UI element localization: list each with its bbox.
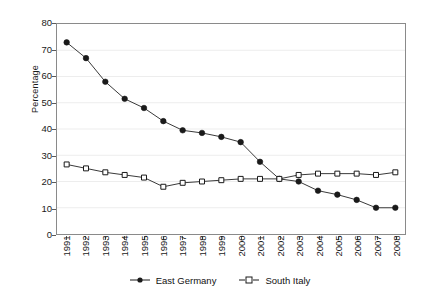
x-tick-label: 1991 bbox=[61, 230, 72, 262]
data-point bbox=[354, 171, 359, 176]
data-point bbox=[316, 171, 321, 176]
data-point bbox=[393, 205, 399, 211]
legend-item[interactable]: East Germany bbox=[129, 275, 217, 286]
x-tick-label: 1992 bbox=[80, 230, 91, 262]
y-tick-label: 20 bbox=[30, 176, 52, 187]
data-point bbox=[161, 184, 166, 189]
data-point bbox=[238, 139, 244, 145]
legend-item[interactable]: South Italy bbox=[238, 275, 310, 286]
line-chart: Percentage 01020304050607080 19911992199… bbox=[0, 0, 439, 293]
data-point bbox=[354, 197, 360, 203]
x-tick-label: 1998 bbox=[197, 230, 208, 262]
data-point bbox=[296, 172, 301, 177]
x-tick-label: 2000 bbox=[236, 230, 247, 262]
data-point bbox=[64, 162, 69, 167]
data-point bbox=[83, 55, 89, 61]
data-point bbox=[335, 192, 341, 198]
open-square-icon bbox=[238, 275, 260, 285]
x-tick-label: 2004 bbox=[314, 230, 325, 262]
data-point bbox=[277, 176, 282, 181]
x-tick-label: 2001 bbox=[255, 230, 266, 262]
y-tick-label: 70 bbox=[30, 44, 52, 55]
x-tick-label: 2007 bbox=[372, 230, 383, 262]
x-tick-label: 2005 bbox=[333, 230, 344, 262]
data-point bbox=[103, 170, 108, 175]
data-point bbox=[84, 166, 89, 171]
y-tick-label: 40 bbox=[30, 123, 52, 134]
plot-area bbox=[56, 23, 406, 235]
plot-svg bbox=[57, 24, 405, 234]
data-point bbox=[122, 96, 128, 102]
x-axis-tick-labels: 1991199219931994199519961997199819992000… bbox=[56, 241, 406, 273]
data-point bbox=[238, 176, 243, 181]
data-point bbox=[374, 172, 379, 177]
y-tick-label: 10 bbox=[30, 203, 52, 214]
data-point bbox=[257, 159, 263, 165]
x-tick-label: 2006 bbox=[352, 230, 363, 262]
x-tick-label: 1997 bbox=[177, 230, 188, 262]
data-point bbox=[142, 175, 147, 180]
filled-circle-icon bbox=[129, 275, 151, 285]
data-point bbox=[200, 179, 205, 184]
data-point bbox=[180, 180, 185, 185]
data-point bbox=[219, 134, 225, 140]
data-point bbox=[103, 79, 109, 85]
legend-label: East Germany bbox=[156, 275, 217, 286]
data-point bbox=[64, 40, 70, 46]
data-point bbox=[315, 188, 321, 194]
x-tick-label: 1995 bbox=[139, 230, 150, 262]
data-point bbox=[258, 176, 263, 181]
x-tick-label: 2008 bbox=[391, 230, 402, 262]
data-point bbox=[199, 130, 205, 136]
data-point bbox=[122, 172, 127, 177]
x-tick-label: 1994 bbox=[119, 230, 130, 262]
data-point bbox=[373, 205, 379, 211]
data-point bbox=[219, 178, 224, 183]
y-tick-label: 60 bbox=[30, 70, 52, 81]
y-axis-tick-labels: 01020304050607080 bbox=[26, 23, 52, 235]
x-tick-label: 1993 bbox=[100, 230, 111, 262]
data-point bbox=[141, 105, 147, 111]
legend-label: South Italy bbox=[265, 275, 310, 286]
y-tick-label: 0 bbox=[30, 229, 52, 240]
chart-legend: East GermanySouth Italy bbox=[0, 272, 439, 288]
x-tick-label: 2003 bbox=[294, 230, 305, 262]
y-tick-label: 80 bbox=[30, 17, 52, 28]
y-tick-label: 30 bbox=[30, 150, 52, 161]
data-point bbox=[180, 128, 186, 134]
data-point bbox=[393, 170, 398, 175]
x-tick-label: 1996 bbox=[158, 230, 169, 262]
y-tick-label: 50 bbox=[30, 97, 52, 108]
x-tick-label: 1999 bbox=[216, 230, 227, 262]
data-point bbox=[335, 171, 340, 176]
x-tick-label: 2002 bbox=[275, 230, 286, 262]
data-point bbox=[161, 118, 167, 124]
data-point bbox=[296, 179, 302, 185]
